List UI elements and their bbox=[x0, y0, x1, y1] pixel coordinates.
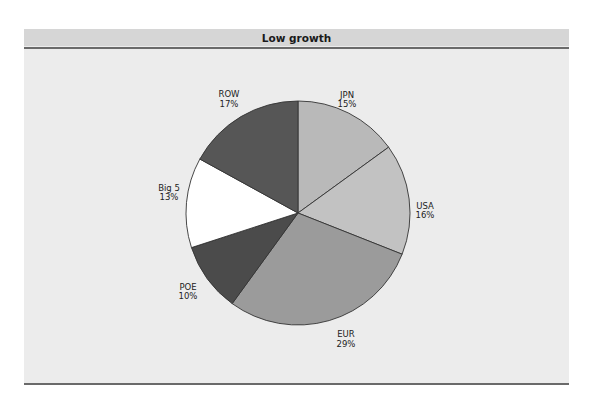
label-eur-value: 29% bbox=[337, 339, 356, 349]
label-usa-value: 16% bbox=[416, 210, 435, 220]
label-row-value: 17% bbox=[220, 99, 239, 109]
pie-chart: JPN 15% USA 16% EUR 29% POE 10% Big 5 13… bbox=[0, 0, 591, 406]
label-eur-name: EUR bbox=[337, 329, 355, 339]
label-row-name: ROW bbox=[218, 89, 240, 99]
label-poe-value: 10% bbox=[179, 291, 198, 301]
pie-slices bbox=[186, 101, 410, 325]
label-jpn-value: 15% bbox=[338, 99, 357, 109]
label-big5-value: 13% bbox=[160, 192, 179, 202]
